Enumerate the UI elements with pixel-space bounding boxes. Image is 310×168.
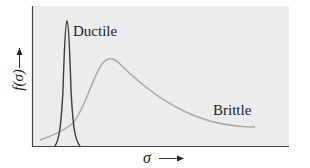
brittle-curve <box>40 59 255 140</box>
ductile-label: Ductile <box>73 23 117 40</box>
y-axis-label: f(σ) <box>10 65 27 95</box>
y-axis-arrow-icon <box>17 48 23 55</box>
x-axis-arrow-icon <box>177 156 184 162</box>
chart-svg <box>0 0 310 168</box>
x-axis-label: σ <box>143 149 151 167</box>
brittle-label: Brittle <box>213 102 251 119</box>
